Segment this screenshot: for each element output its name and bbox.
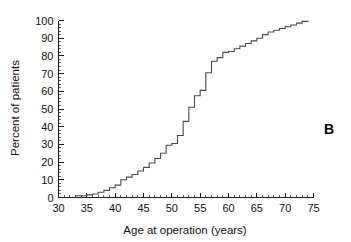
x-axis-title: Age at operation (years) <box>123 224 247 236</box>
y-tick-label: 50 <box>41 103 53 115</box>
y-axis-title: Percent of patients <box>9 60 21 156</box>
x-tick-label: 45 <box>137 202 149 214</box>
x-tick-label: 75 <box>307 202 319 214</box>
x-tick-label: 65 <box>251 202 263 214</box>
y-tick-label: 70 <box>41 68 53 80</box>
x-tick-label: 40 <box>109 202 121 214</box>
x-tick-label: 55 <box>194 202 206 214</box>
x-tick-label: 60 <box>222 202 234 214</box>
y-tick-label: 80 <box>41 50 53 62</box>
step-curve-cumulative-percent <box>76 21 308 198</box>
y-tick-label: 100 <box>35 15 53 27</box>
x-tick-label: 30 <box>52 202 64 214</box>
minor-tick-marks <box>59 21 314 198</box>
y-tick-label: 20 <box>41 156 53 168</box>
y-tick-label: 90 <box>41 32 53 44</box>
x-tick-label: 50 <box>166 202 178 214</box>
y-tick-label: 40 <box>41 121 53 133</box>
y-tick-label: 60 <box>41 85 53 97</box>
x-axis-tick-labels: 30354045505560657075 <box>52 202 319 214</box>
cumulative-distribution-chart: 0102030405060708090100 30354045505560657… <box>0 0 351 242</box>
y-tick-label: 30 <box>41 138 53 150</box>
major-tick-marks <box>59 21 314 198</box>
y-axis-tick-labels: 0102030405060708090100 <box>35 15 53 204</box>
x-tick-label: 35 <box>81 202 93 214</box>
x-tick-label: 70 <box>279 202 291 214</box>
y-tick-label: 10 <box>41 174 53 186</box>
chart-axes <box>59 21 314 198</box>
panel-label-b: B <box>324 121 334 137</box>
figure-panel-b: 0102030405060708090100 30354045505560657… <box>0 0 351 242</box>
